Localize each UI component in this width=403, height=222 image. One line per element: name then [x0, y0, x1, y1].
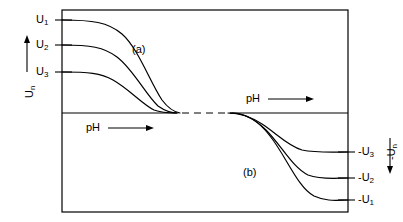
tick-label-u3-sub: 3: [44, 70, 48, 79]
tick-label-u1: U1: [36, 14, 48, 25]
curve-a1: [62, 20, 180, 113]
tick-label-u1-text: U: [36, 13, 44, 25]
tick-label-neg-u3-sub: 3: [370, 150, 374, 159]
curve-a2: [62, 45, 178, 113]
tick-label-u3: U3: [36, 66, 48, 77]
curve-b1: [232, 113, 348, 200]
y-axis-label-right-sub: n: [390, 144, 399, 148]
tick-label-u1-sub: 1: [44, 18, 48, 27]
y-axis-label-right-text: -U: [385, 148, 397, 160]
tick-label-neg-u2-sub: 2: [370, 176, 374, 185]
figure-container: Un -Un U1 U2 U3 -U3 -U2 -U1 pH pH (a) (b…: [0, 0, 403, 222]
right-axis-arrow-head: [387, 166, 393, 174]
curve-label-a: (a): [132, 44, 145, 55]
y-axis-label-left-sub: n: [28, 86, 37, 90]
tick-label-neg-u1-sub: 1: [370, 198, 374, 207]
tick-label-u2-text: U: [36, 38, 44, 50]
plot-frame: [62, 10, 348, 212]
curve-b3: [228, 113, 348, 152]
ph-arrow-lower-head: [146, 125, 154, 131]
left-axis-arrow-head: [24, 35, 30, 43]
tick-label-u2-sub: 2: [44, 43, 48, 52]
plot-svg: [0, 0, 403, 222]
y-axis-label-left-text: U: [23, 90, 35, 98]
tick-label-neg-u3: -U3: [358, 146, 374, 157]
tick-label-neg-u2-text: -U: [358, 171, 370, 183]
tick-label-neg-u3-text: -U: [358, 145, 370, 157]
tick-label-u2: U2: [36, 39, 48, 50]
ph-label-upper: pH: [246, 93, 260, 104]
tick-label-neg-u2: -U2: [358, 172, 374, 183]
y-axis-label-right: -Un: [386, 144, 397, 160]
ph-arrow-upper-head: [306, 96, 314, 102]
tick-label-neg-u1: -U1: [358, 194, 374, 205]
tick-label-neg-u1-text: -U: [358, 193, 370, 205]
y-axis-label-left: Un: [24, 86, 35, 98]
tick-label-u3-text: U: [36, 65, 44, 77]
ph-label-lower: pH: [86, 122, 100, 133]
curve-label-b: (b): [243, 167, 256, 178]
